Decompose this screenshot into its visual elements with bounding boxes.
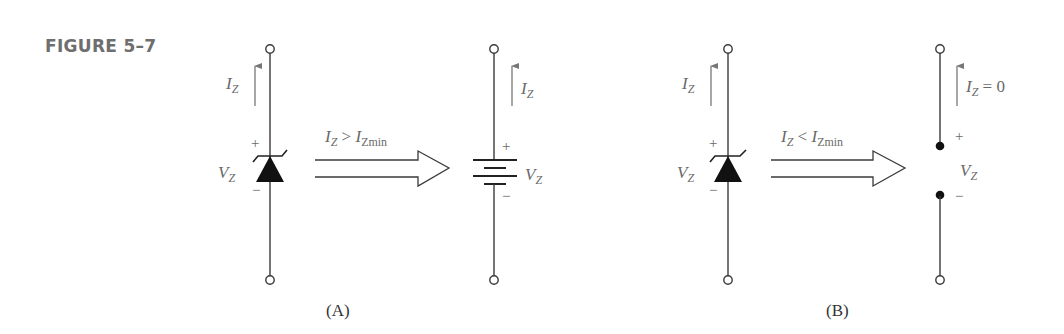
svg-text:VZ: VZ xyxy=(218,163,235,185)
open-circuit-equivalent-b: IZ = 0 + VZ − xyxy=(936,45,1005,284)
double-arrow-icon xyxy=(315,151,449,186)
caption-b: (B) xyxy=(826,301,849,320)
top-terminal-icon xyxy=(490,45,498,53)
svg-text:VZ: VZ xyxy=(960,161,977,183)
battery-equivalent-a: IZ + VZ − xyxy=(473,45,542,284)
plus-sign: + xyxy=(251,135,259,151)
minus-sign: − xyxy=(252,182,260,198)
top-terminal-icon xyxy=(266,45,274,53)
panel-a: IZ + VZ − IZ > IZmin IZ + VZ xyxy=(218,45,542,320)
top-terminal-icon xyxy=(936,45,944,53)
caption-a: (A) xyxy=(326,301,350,320)
plus-sign: + xyxy=(955,128,963,144)
double-arrow-icon xyxy=(771,151,905,186)
node-dot-icon xyxy=(936,142,945,151)
minus-sign: − xyxy=(709,182,717,198)
bottom-terminal-icon xyxy=(490,276,498,284)
bottom-terminal-icon xyxy=(266,276,274,284)
plus-sign: + xyxy=(709,135,717,151)
svg-text:VZ: VZ xyxy=(525,165,542,187)
transition-arrow-b: IZ < IZmin xyxy=(771,127,905,186)
svg-text:IZ: IZ xyxy=(681,74,695,96)
svg-text:IZ = 0: IZ = 0 xyxy=(965,77,1005,99)
svg-text:VZ: VZ xyxy=(677,163,694,185)
condition-label-a: IZ > IZmin xyxy=(324,127,387,149)
bottom-terminal-icon xyxy=(936,276,944,284)
zener-diode-circuit-b: IZ + VZ − xyxy=(677,45,746,284)
zener-diagram: IZ + VZ − IZ > IZmin IZ + VZ xyxy=(0,0,1064,334)
svg-text:IZ: IZ xyxy=(520,79,534,101)
minus-sign: − xyxy=(502,188,510,204)
transition-arrow-a: IZ > IZmin xyxy=(315,127,449,186)
zener-diode-circuit-a: IZ + VZ − xyxy=(218,45,287,284)
top-terminal-icon xyxy=(724,45,732,53)
bottom-terminal-icon xyxy=(724,276,732,284)
battery-icon xyxy=(473,160,517,184)
plus-sign: + xyxy=(502,138,510,154)
svg-text:IZ: IZ xyxy=(225,74,239,96)
panel-b: IZ + VZ − IZ < IZmin IZ = 0 + VZ − (B) xyxy=(677,45,1005,320)
condition-label-b: IZ < IZmin xyxy=(780,127,843,149)
minus-sign: − xyxy=(955,188,963,204)
